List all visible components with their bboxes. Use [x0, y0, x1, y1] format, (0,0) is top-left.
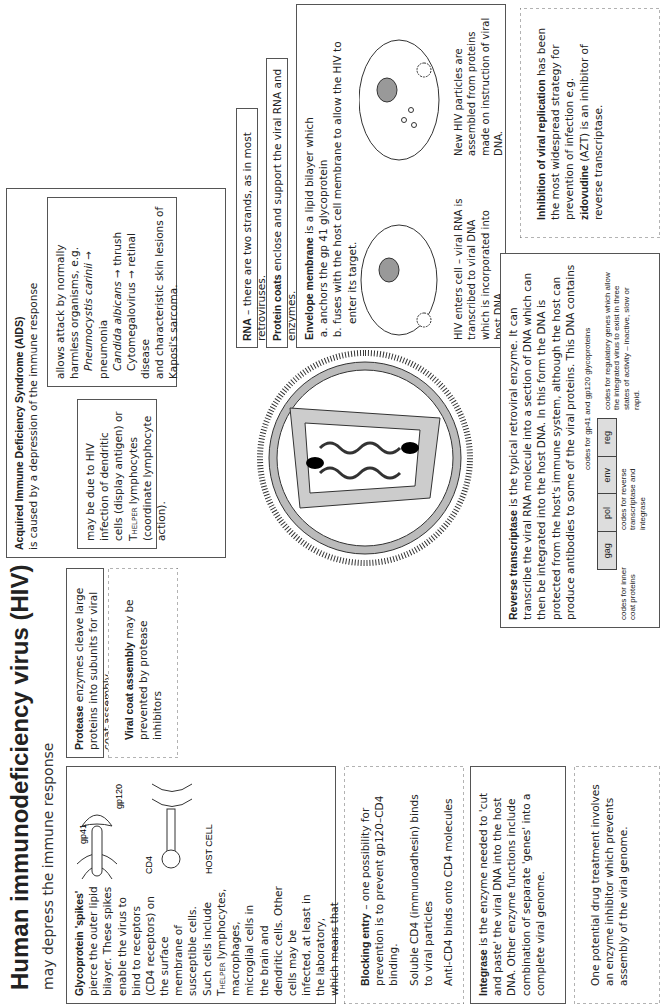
envelope-text: is a lipid bilayer which: [303, 117, 315, 237]
drug-treatment-text: One potential drug treatment involves an…: [588, 784, 631, 986]
zidovudine: zidovudine: [578, 165, 590, 220]
aids-heading: Acquired Immune Deficiency Syndrome (AID…: [13, 317, 25, 550]
rna-text: – there are two strands, as in most retr…: [241, 132, 267, 341]
aids-box: Acquired Immune Deficiency Syndrome (AID…: [6, 188, 226, 558]
organism: Candida albicans: [111, 281, 123, 371]
integrase-heading: Integrase: [477, 949, 489, 996]
inhibition-note: Inhibition of viral replication has been…: [520, 8, 660, 238]
gag-note: codes for inner coat proteins: [619, 560, 638, 620]
aids-effect-box: allows attack by normally harmless organ…: [47, 197, 177, 387]
blocking-soluble-cd4: Soluble CD4 (immunoadhesin) binds to vir…: [407, 784, 435, 986]
spike-receptor-diagram: gp41 gp120 CD4 HOST CELL: [72, 774, 222, 884]
gene-gag: gag: [598, 531, 616, 569]
protein-coats-heading: Protein coats: [271, 274, 283, 341]
gene-reg: reg: [598, 419, 616, 456]
gene-pol: pol: [598, 494, 616, 532]
aids-effect-intro: allows attack by normally harmless organ…: [54, 244, 80, 379]
svg-text:gp120: gp120: [114, 784, 124, 809]
organism: Pneumocystis carinii: [82, 263, 94, 371]
svg-text:HOST CELL: HOST CELL: [204, 824, 214, 874]
cell2-caption: New HIV particles are assembled from pro…: [452, 12, 506, 156]
envelope-item-b: fuses with the host cell membrane to all…: [330, 12, 358, 324]
svg-text:gp41: gp41: [78, 824, 88, 844]
hiv-virion-diagram: [240, 348, 490, 568]
pol-note: codes for reverse transcriptase and inte…: [619, 450, 648, 530]
hiv-page: Human immunodeficiency virus (HIV) may d…: [0, 0, 667, 1008]
result: Cytomegalovirus → retinal disease: [125, 233, 151, 379]
rna-heading: RNA: [241, 318, 253, 341]
aids-effect-end: and characteristic skin lesions of Kapos…: [153, 207, 179, 379]
inhibition-heading: Inhibition of viral replication: [535, 79, 547, 220]
protease-heading: Protease: [73, 706, 85, 750]
envelope-heading: Envelope membrane: [303, 237, 315, 340]
aids-cause-box: may be due to HIV infection of dendritic…: [77, 399, 157, 549]
cell-infection-diagram: [359, 10, 449, 340]
reverse-heading: Reverse transcriptase: [507, 510, 519, 620]
viral-coat-note: Viral coat assembly may be prevented by …: [108, 568, 178, 758]
subscript: HELPER: [219, 962, 227, 989]
result: → thrush: [111, 232, 123, 281]
integrase-box: Integrase is the enzyme needed to 'cut a…: [470, 766, 566, 1004]
page-subtitle: may depress the immune response: [40, 743, 56, 990]
gene-env: env: [598, 456, 616, 494]
reverse-transcriptase-box: Reverse transcriptase is the typical ret…: [500, 253, 660, 628]
glycoprotein-heading: Glycoprotein 'spikes': [73, 891, 85, 996]
glycoprotein-text: pierce the outer lipid bilayer. These sp…: [87, 886, 227, 996]
aids-subheading: is caused by a depression of the immune …: [27, 283, 39, 550]
gene-map: gag pol env reg: [597, 418, 617, 570]
blocking-heading: Blocking entry: [359, 913, 371, 986]
page-title: Human immunodeficiency virus (HIV): [6, 565, 34, 990]
protease-box: Protease enzymes cleave large proteins i…: [66, 568, 104, 758]
env-note: codes for gp41 and gp120 glycoproteins: [583, 310, 593, 470]
blocking-entry-note: Blocking entry – one possibility for pre…: [344, 766, 464, 1004]
envelope-box: Envelope membrane is a lipid bilayer whi…: [296, 4, 506, 348]
blocking-anti-cd4: Anti-CD4 binds onto CD4 molecules: [441, 784, 455, 986]
cell1-caption: HIV enters cell – viral RNA is transcrib…: [452, 196, 506, 340]
reg-note: codes for regulatory genes which allow t…: [603, 270, 641, 410]
protein-coats-box: Protein coats enclose and support the vi…: [266, 58, 288, 348]
envelope-item-a: anchors the gp 41 glycoprotein: [316, 12, 330, 324]
subscript: HELPER: [131, 507, 139, 534]
viral-coat-heading: Viral coat assembly: [123, 642, 135, 740]
svg-text:CD4: CD4: [144, 856, 154, 874]
drug-treatment-note: One potential drug treatment involves an…: [574, 766, 660, 1004]
rna-box: RNA – there are two strands, as in most …: [236, 108, 258, 348]
glycoprotein-box: Glycoprotein 'spikes' pierce the outer l…: [66, 766, 336, 1004]
